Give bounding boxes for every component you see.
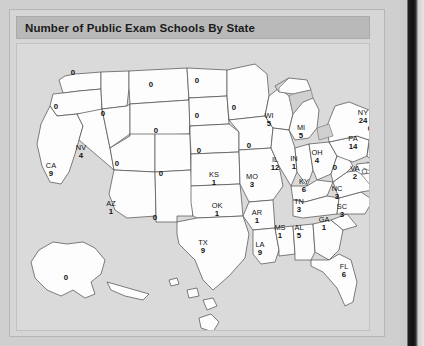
state-shapes	[31, 64, 369, 330]
page-title: Number of Public Exam Schools By State	[17, 22, 255, 34]
us-choropleth-map: 00CA9NV40000AZ100000KS1OK1TX900MO3AR1LA9…	[16, 43, 370, 331]
figure-container: Number of Public Exam Schools By State	[9, 9, 385, 337]
map-geometry	[17, 44, 369, 330]
page-binding-edge	[400, 0, 424, 346]
figure-title-bar: Number of Public Exam Schools By State	[16, 16, 370, 39]
